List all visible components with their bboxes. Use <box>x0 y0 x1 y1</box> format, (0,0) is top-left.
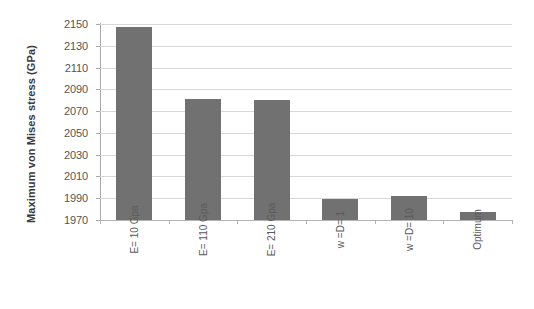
y-axis-tick-label: 2110 <box>65 62 88 74</box>
x-axis-tick-label-text: Optimum <box>472 209 483 250</box>
y-axis-tick-label: 1970 <box>64 214 88 226</box>
x-axis-tick-label-text: w =D= 1 <box>335 211 346 248</box>
y-axis-tick-label: 2090 <box>64 83 88 95</box>
y-axis-tick-label: 2050 <box>64 127 88 139</box>
bar-chart: Maximum von Mises stress (GPa) 215021302… <box>0 0 534 309</box>
plot-area <box>100 24 512 220</box>
x-axis-tick-label-text: E= 210 Gpa <box>266 203 277 257</box>
y-axis-title: Maximum von Mises stress (GPa) <box>18 8 44 260</box>
bar <box>116 27 152 220</box>
y-axis-tick-label: 2030 <box>64 149 88 161</box>
y-axis-tick-label: 2070 <box>64 105 88 117</box>
y-axis-tick-label: 1990 <box>64 192 88 204</box>
x-axis-tick-label-text: E= 10 Gpa <box>129 205 140 253</box>
bar-series <box>100 24 512 220</box>
y-axis-tick-label: 2010 <box>64 170 88 182</box>
x-axis-tick-label-text: E= 110 Gpa <box>197 203 208 256</box>
x-axis-tick-label-text: w =D= 10 <box>404 208 415 251</box>
bar <box>185 99 221 220</box>
x-axis-tick-labels: E= 10 GpaE= 110 GpaE= 210 Gpaw =D= 1w =D… <box>100 224 512 306</box>
x-axis-tick-label: Optimum <box>438 224 518 304</box>
y-axis-tick-labels: 2150213021102090207020502030201019901970 <box>46 24 94 220</box>
y-axis-title-text: Maximum von Mises stress (GPa) <box>25 45 37 223</box>
y-axis-tick-label: 2150 <box>64 18 88 30</box>
y-axis-tick-label: 2130 <box>64 40 88 52</box>
